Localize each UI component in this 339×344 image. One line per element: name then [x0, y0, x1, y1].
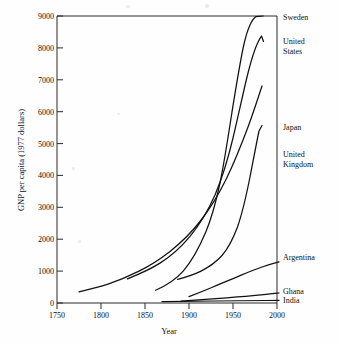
series-label-united-states-line1: United — [283, 37, 305, 46]
chart-canvas: 0 1000 2000 3000 4000 5000 6000 7000 800… — [0, 0, 339, 344]
x-tick-label: 1800 — [93, 311, 109, 320]
plot-frame — [57, 16, 277, 303]
series-curve-united-states — [127, 36, 263, 279]
series-label-united-kingdom-line1: United — [283, 150, 305, 159]
y-tick-label: 6000 — [38, 108, 54, 117]
series-curve-sweden — [156, 16, 263, 290]
y-tick-label: 7000 — [38, 76, 54, 85]
series-curve-india — [162, 300, 279, 301]
x-tick-label: 2000 — [269, 311, 285, 320]
series-label-japan: Japan — [283, 123, 301, 132]
x-axis-title: Year — [161, 326, 177, 336]
series-label-united-states-line2: States — [283, 47, 302, 56]
y-axis-title: GNP per capita (1977 dollars) — [16, 109, 26, 211]
y-tick-label: 0 — [50, 299, 54, 308]
y-tick-labels: 0 1000 2000 3000 4000 5000 6000 7000 800… — [38, 12, 54, 308]
x-tick-label: 1750 — [49, 311, 65, 320]
x-tick-label: 1950 — [225, 311, 241, 320]
x-tick-label: 1850 — [137, 311, 153, 320]
y-tick-label: 9000 — [38, 12, 54, 21]
series-label-india: India — [283, 296, 300, 305]
series-curve-argentina — [189, 262, 279, 297]
x-axis-ticks — [57, 303, 277, 309]
y-tick-label: 3000 — [38, 203, 54, 212]
y-axis-ticks — [57, 16, 63, 303]
y-tick-label: 4000 — [38, 171, 54, 180]
series-curve-united-kingdom — [79, 86, 262, 292]
series-label-united-kingdom-line2: Kingdom — [283, 160, 314, 169]
y-tick-label: 5000 — [38, 140, 54, 149]
series-label-argentina: Argentina — [283, 253, 315, 262]
series-label-sweden: Sweden — [283, 13, 308, 22]
y-tick-label: 8000 — [38, 44, 54, 53]
y-tick-label: 1000 — [38, 267, 54, 276]
x-tick-label: 1900 — [181, 311, 197, 320]
series-curve-japan — [178, 126, 262, 280]
series-label-ghana: Ghana — [283, 287, 304, 296]
x-tick-labels: 1750 1800 1850 1900 1950 2000 — [49, 311, 285, 320]
y-tick-label: 2000 — [38, 235, 54, 244]
chart-figure: 0 1000 2000 3000 4000 5000 6000 7000 800… — [0, 0, 339, 344]
